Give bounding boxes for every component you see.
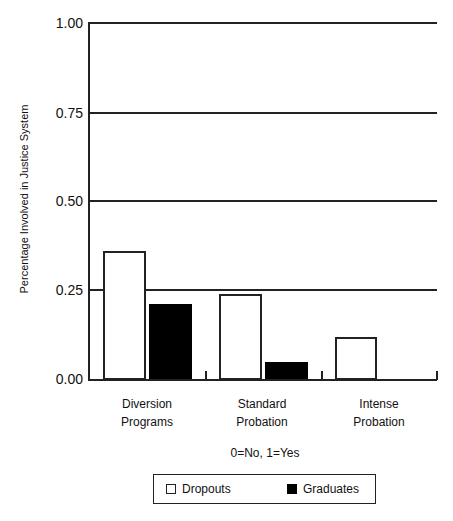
y-tick-label: 0.00	[33, 372, 83, 386]
white-square-icon	[166, 484, 176, 494]
gridline-0.75	[88, 112, 437, 114]
gridline-1.00	[88, 22, 437, 24]
x-tick	[436, 371, 438, 380]
black-square-icon	[287, 484, 297, 494]
x-category-label: Diversion Programs	[92, 395, 202, 431]
x-axis	[88, 379, 437, 381]
gridline-0.50	[88, 200, 437, 202]
bar-dropouts-intense	[335, 337, 377, 380]
bar-graduates-diversion	[149, 304, 192, 380]
y-tick-label: 1.00	[33, 16, 83, 30]
bar-graduates-standard	[265, 362, 308, 380]
x-tick	[321, 371, 323, 380]
legend-item-graduates: Graduates	[287, 482, 359, 496]
legend: Dropouts Graduates	[153, 474, 376, 504]
y-tick-label: 0.75	[33, 106, 83, 120]
bar-dropouts-standard	[219, 294, 262, 380]
x-axis-label: 0=No, 1=Yes	[200, 446, 330, 460]
y-tick-label: 0.25	[33, 283, 83, 297]
legend-item-dropouts: Dropouts	[166, 482, 231, 496]
bar-dropouts-diversion	[103, 251, 146, 380]
y-tick-label: 0.50	[33, 194, 83, 208]
x-tick	[205, 371, 207, 380]
x-category-label: Intense Probation	[324, 395, 434, 431]
y-axis-label: Percentage Involved in Justice System	[18, 89, 30, 309]
x-category-label: Standard Probation	[207, 395, 317, 431]
